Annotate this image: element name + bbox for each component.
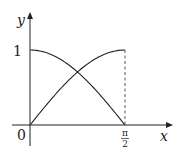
pi-numerator: π — [122, 128, 128, 138]
y-axis-label: y — [16, 12, 26, 28]
diagram-canvas: y 1 0 x π 2 — [0, 0, 177, 154]
sin-curve — [30, 50, 125, 125]
y-tick-1: 1 — [13, 43, 22, 59]
pi-denominator: 2 — [122, 139, 128, 149]
cos-curve — [30, 50, 125, 125]
origin-label: 0 — [17, 127, 26, 143]
x-tick-pi-over-2: π 2 — [121, 128, 129, 149]
y-axis-arrow-icon — [27, 12, 33, 19]
x-axis-label: x — [160, 128, 168, 144]
